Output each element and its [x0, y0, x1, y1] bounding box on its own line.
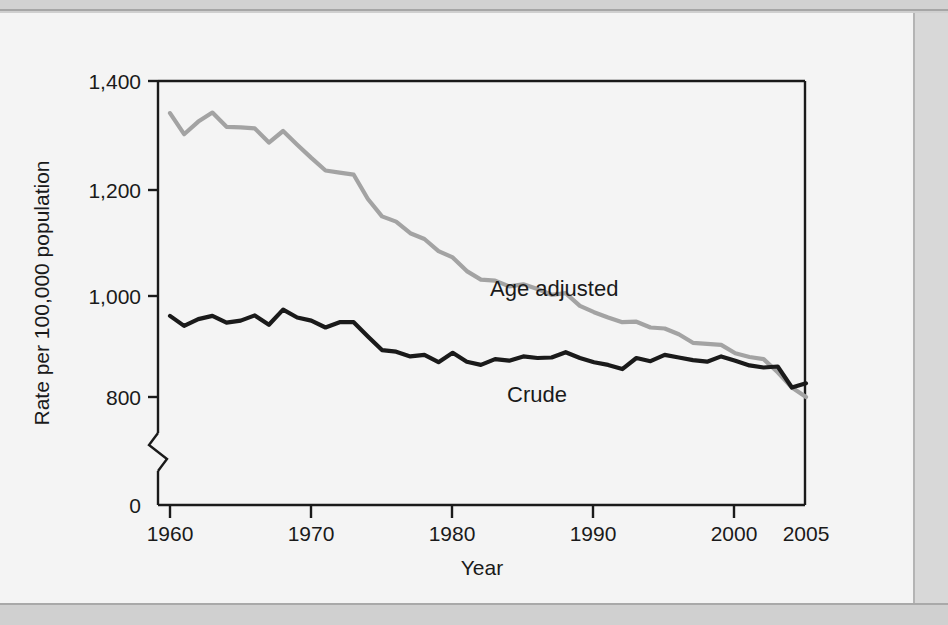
line-chart: 1,400 1,200 1,000 800 0 1960 1970 1980 1… — [0, 13, 915, 603]
y-axis-title: Rate per 100,000 population — [30, 160, 53, 425]
y-tick-label-1400: 1,400 — [88, 70, 141, 93]
series-line-age-adjusted — [170, 113, 806, 397]
series-line-crude — [170, 310, 806, 388]
x-tick-label-2005: 2005 — [783, 522, 830, 545]
axis-frame — [149, 81, 805, 505]
y-tick-label-800: 800 — [106, 386, 141, 409]
x-axis-ticks — [170, 505, 734, 518]
right-margin-band — [915, 13, 948, 603]
x-tick-label-1980: 1980 — [429, 522, 476, 545]
series-annotation-age-adjusted: Age adjusted — [490, 276, 618, 301]
top-border-band — [0, 0, 948, 11]
x-tick-label-1960: 1960 — [147, 522, 194, 545]
x-tick-label-2000: 2000 — [711, 522, 758, 545]
x-axis-title: Year — [461, 556, 503, 579]
x-tick-label-1990: 1990 — [570, 522, 617, 545]
figure-page: 1,400 1,200 1,000 800 0 1960 1970 1980 1… — [0, 0, 948, 625]
y-tick-label-1200: 1,200 — [88, 179, 141, 202]
x-tick-label-1970: 1970 — [288, 522, 335, 545]
y-tick-label-0: 0 — [129, 494, 141, 517]
series-annotation-crude: Crude — [507, 382, 567, 407]
y-axis-ticks — [148, 81, 158, 397]
y-tick-label-1000: 1,000 — [88, 285, 141, 308]
bottom-border-band — [0, 603, 948, 625]
figure-panel: 1,400 1,200 1,000 800 0 1960 1970 1980 1… — [0, 13, 915, 603]
